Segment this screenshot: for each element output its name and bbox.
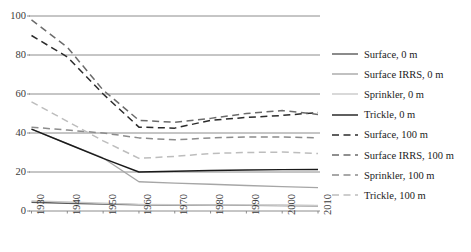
series-line-5 (32, 20, 319, 122)
plot-area: 100806040200 193019401950196019701980199… (0, 0, 330, 252)
legend-item-label: Surface, 100 m (364, 129, 428, 140)
legend-item-label: Sprinkler, 100 m (364, 170, 434, 181)
y-tick-label: 0 (0, 206, 26, 216)
x-tick-label: 1970 (179, 194, 189, 215)
y-tick-label: 100 (0, 11, 26, 21)
legend-item[interactable]: Surface IRRS, 0 m (332, 64, 471, 84)
legend-item-label: Trickle, 100 m (364, 190, 426, 201)
legend-item[interactable]: Trickle, 100 m (332, 185, 471, 205)
legend-swatch-icon (332, 130, 358, 140)
series-line-7 (32, 102, 319, 159)
y-tick-label: 40 (0, 128, 26, 138)
chart-legend: Surface, 0 mSurface IRRS, 0 mSprinkler, … (332, 44, 471, 206)
legend-swatch-icon (332, 110, 358, 120)
legend-item-label: Surface, 0 m (364, 49, 417, 60)
chart-root: 100806040200 193019401950196019701980199… (0, 0, 471, 252)
legend-swatch-icon (332, 69, 358, 79)
x-tick-label: 1940 (72, 194, 82, 215)
series-layer (32, 20, 319, 206)
legend-item[interactable]: Surface, 0 m (332, 44, 471, 64)
legend-item[interactable]: Surface IRRS, 100 m (332, 145, 471, 165)
series-line-4 (32, 36, 319, 129)
y-tick-label: 60 (0, 89, 26, 99)
x-tick-label: 2000 (287, 194, 297, 215)
series-line-3 (32, 129, 319, 172)
x-tick-label: 2010 (323, 194, 333, 215)
x-tick-label: 1930 (36, 194, 46, 215)
legend-swatch-icon (332, 49, 358, 59)
y-tick-label: 20 (0, 167, 26, 177)
legend-swatch-icon (332, 150, 358, 160)
x-tick-label: 1990 (251, 194, 261, 215)
gridlines (27, 16, 320, 214)
x-tick-label: 1950 (108, 194, 118, 215)
series-line-1 (32, 129, 319, 188)
legend-item-label: Surface IRRS, 0 m (364, 69, 443, 80)
legend-item-label: Sprinkler, 0 m (364, 89, 424, 100)
legend-swatch-icon (332, 190, 358, 200)
legend-item[interactable]: Sprinkler, 0 m (332, 84, 471, 104)
legend-item-label: Surface IRRS, 100 m (364, 150, 454, 161)
legend-item[interactable]: Surface, 100 m (332, 125, 471, 145)
x-tick-label: 1980 (215, 194, 225, 215)
legend-item-label: Trickle, 0 m (364, 109, 415, 120)
series-line-6 (32, 127, 319, 140)
legend-item[interactable]: Sprinkler, 100 m (332, 165, 471, 185)
chart-svg (0, 0, 330, 252)
legend-item[interactable]: Trickle, 0 m (332, 105, 471, 125)
legend-swatch-icon (332, 89, 358, 99)
legend-swatch-icon (332, 170, 358, 180)
x-tick-label: 1960 (143, 194, 153, 215)
y-tick-label: 80 (0, 50, 26, 60)
